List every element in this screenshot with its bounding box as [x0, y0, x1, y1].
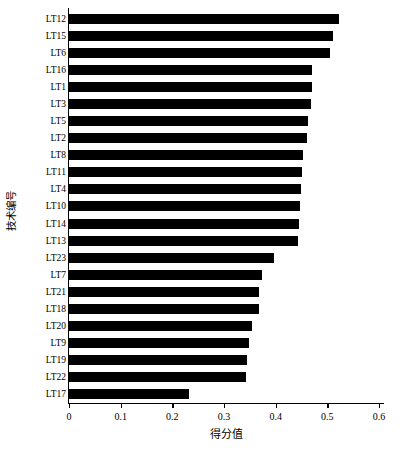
bar [69, 389, 189, 399]
y-tick-label: LT15 [20, 31, 66, 41]
y-tick-label: LT6 [20, 48, 66, 58]
x-tick-mark [69, 404, 70, 408]
x-axis-title: 得分值 [68, 425, 384, 441]
y-tick-label: LT9 [20, 338, 66, 348]
bar [69, 82, 312, 92]
y-tick-label: LT16 [20, 65, 66, 75]
bars-layer [69, 8, 384, 403]
bar [69, 167, 302, 177]
bar [69, 14, 339, 24]
y-axis-title: 技术编号 [0, 160, 20, 260]
x-tick-label: 0.6 [359, 411, 399, 422]
bar [69, 219, 299, 229]
bar [69, 65, 312, 75]
y-tick-label: LT21 [20, 287, 66, 297]
x-axis-spine [68, 403, 384, 404]
x-tick-label: 0 [49, 411, 89, 422]
x-tick-label: 0.4 [256, 411, 296, 422]
y-tick-label: LT10 [20, 201, 66, 211]
x-tick-mark [172, 404, 173, 408]
x-tick-mark [276, 404, 277, 408]
x-tick-mark [379, 404, 380, 408]
x-tick-mark [121, 404, 122, 408]
y-tick-label: LT17 [20, 389, 66, 399]
bar [69, 287, 259, 297]
plot-area: 00.10.20.30.40.50.6 [68, 8, 384, 404]
bar [69, 31, 333, 41]
x-tick-label: 0.1 [101, 411, 141, 422]
y-tick-label: LT11 [20, 167, 66, 177]
x-tick-label: 0.5 [307, 411, 347, 422]
bar [69, 116, 308, 126]
x-tick-mark [327, 404, 328, 408]
y-tick-label: LT5 [20, 116, 66, 126]
bar [69, 201, 300, 211]
y-tick-label: LT18 [20, 304, 66, 314]
bar [69, 99, 311, 109]
bar [69, 184, 301, 194]
x-tick-mark [224, 404, 225, 408]
y-tick-label: LT1 [20, 82, 66, 92]
y-axis-tick-labels: LT12LT15LT6LT16LT1LT3LT5LT2LT8LT11LT4LT1… [20, 8, 66, 404]
y-tick-label: LT22 [20, 372, 66, 382]
bar [69, 338, 249, 348]
y-tick-label: LT2 [20, 133, 66, 143]
y-tick-label: LT23 [20, 253, 66, 263]
bar [69, 133, 307, 143]
y-tick-label: LT7 [20, 270, 66, 280]
y-tick-label: LT19 [20, 355, 66, 365]
y-tick-label: LT3 [20, 99, 66, 109]
bar [69, 321, 252, 331]
x-tick-label: 0.3 [204, 411, 244, 422]
x-tick-label: 0.2 [152, 411, 192, 422]
bar [69, 270, 262, 280]
y-tick-label: LT4 [20, 184, 66, 194]
bar-chart: 技术编号 LT12LT15LT6LT16LT1LT3LT5LT2LT8LT11L… [0, 0, 404, 464]
y-tick-label: LT12 [20, 14, 66, 24]
y-tick-label: LT20 [20, 321, 66, 331]
y-tick-label: LT13 [20, 236, 66, 246]
bar [69, 304, 259, 314]
y-tick-label: LT14 [20, 219, 66, 229]
bar [69, 236, 298, 246]
bar [69, 48, 330, 58]
y-axis-title-text: 技术编号 [3, 190, 18, 230]
bar [69, 372, 246, 382]
y-tick-label: LT8 [20, 150, 66, 160]
bar [69, 355, 247, 365]
bar [69, 150, 303, 160]
bar [69, 253, 274, 263]
